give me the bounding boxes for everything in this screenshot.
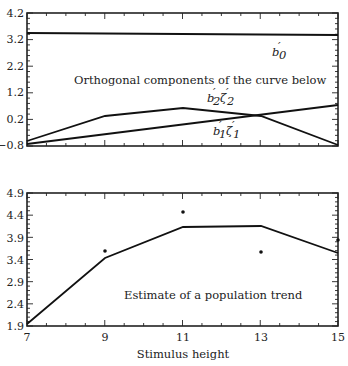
top-ytick: 3.2	[7, 33, 25, 46]
xtick: 11	[176, 331, 190, 344]
bottom-ytick: 4.9	[7, 187, 25, 200]
xtick: 9	[102, 331, 109, 344]
xtick: 13	[254, 331, 268, 344]
top-ytick: −0.8	[0, 139, 24, 152]
bottom-ytick: 3.4	[7, 254, 25, 267]
bottom-ytick: 2.4	[7, 298, 25, 311]
svg-text:1: 1	[233, 127, 240, 141]
svg-text:0: 0	[279, 48, 286, 62]
b2-zeta2-line	[27, 108, 338, 145]
bottom-ytick: 4.4	[7, 209, 25, 222]
top-caption: Orthogonal components of the curve below	[74, 73, 327, 87]
b2-zeta2-label: b ′ 2 ζ ′ 2	[207, 85, 234, 108]
b0-line	[27, 33, 338, 35]
xtick: 7	[24, 331, 31, 344]
top-plot: 4.2 3.2 2.2 1.2 0.2 −0.8 Orthogonal comp…	[0, 7, 338, 152]
bottom-ytick: 2.9	[7, 276, 25, 289]
top-ytick: 2.2	[7, 60, 25, 73]
top-ytick: 4.2	[7, 7, 25, 20]
figure: 4.2 3.2 2.2 1.2 0.2 −0.8 Orthogonal comp…	[0, 0, 348, 366]
x-axis-label: Stimulus height	[137, 347, 230, 361]
bottom-caption: Estimate of a population trend	[124, 288, 303, 302]
b1-zeta1-label: b ′ 1 ζ ′ 1	[213, 118, 240, 141]
xtick: 15	[331, 331, 345, 344]
trend-line	[27, 226, 338, 324]
bottom-ytick: 3.9	[7, 232, 25, 245]
b1-zeta1-line	[27, 105, 338, 144]
top-ytick: 1.2	[7, 86, 25, 99]
bottom-ytick: 1.9	[7, 320, 25, 333]
data-point	[336, 238, 340, 242]
data-point	[259, 250, 263, 254]
data-point	[181, 210, 185, 214]
top-ytick: 0.2	[7, 113, 25, 126]
bottom-plot: 4.9 4.4 3.9 3.4 2.9 2.4 1.9 7 9 11 13 15…	[7, 187, 346, 361]
svg-text:2: 2	[226, 94, 234, 108]
b0-label: b ′ 0	[272, 39, 286, 62]
data-point	[103, 249, 107, 253]
